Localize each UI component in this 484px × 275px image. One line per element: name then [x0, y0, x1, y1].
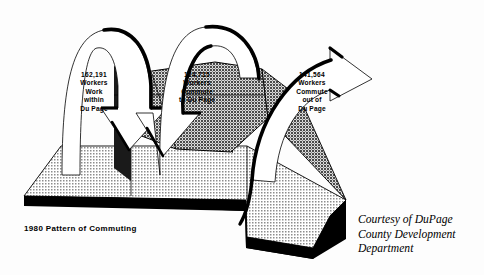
commuting-diagram: 162,191 Workers Work within Du Page 124,…	[0, 0, 484, 275]
figure-caption: 1980 Pattern of Commuting	[24, 224, 137, 233]
figure-credit: Courtesy of DuPage County Development De…	[358, 213, 456, 257]
credit-line-1: Courtesy of DuPage	[358, 213, 456, 228]
credit-line-2: County Development	[358, 228, 456, 243]
credit-line-3: Department	[358, 242, 456, 257]
